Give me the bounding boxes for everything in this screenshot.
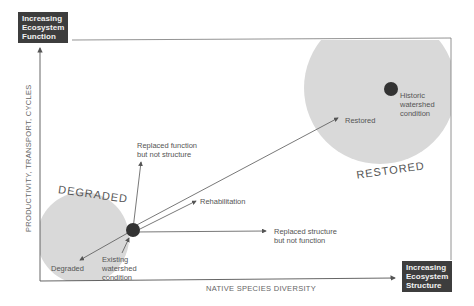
structure-corner-label: Increasing Ecosystem Structure: [402, 261, 452, 292]
arrow-replaced-structure: [133, 231, 266, 232]
label-line: condition: [102, 273, 137, 282]
label-line: Replaced structure: [274, 227, 337, 236]
label-line: watershed: [102, 264, 137, 273]
arrow-restored: [133, 118, 338, 227]
label-line: Increasing: [22, 14, 64, 23]
arrow-rehabilitation: [136, 201, 196, 231]
label-line: Increasing: [406, 263, 448, 272]
historic-condition-dot: [384, 82, 398, 96]
x-axis-label: NATIVE SPECIES DIVERSITY: [206, 284, 316, 293]
label-line: condition: [400, 109, 435, 118]
arrow-replaced-function: [133, 162, 141, 229]
restored-region: [304, 12, 456, 164]
historic-condition-label: Historic watershed condition: [400, 91, 435, 118]
label-line: but not function: [274, 236, 337, 245]
label-line: Structure: [406, 281, 448, 290]
label-line: Existing: [102, 255, 137, 264]
label-line: but not structure: [137, 150, 197, 159]
rehabilitation-label: Rehabilitation: [200, 197, 245, 206]
label-line: watershed: [400, 100, 435, 109]
replaced-structure-label: Replaced structure but not function: [274, 227, 337, 245]
label-line: Ecosystem: [22, 23, 64, 32]
degraded-label: Degraded: [51, 264, 84, 273]
existing-condition-label: Existing watershed condition: [102, 255, 137, 282]
y-axis-label: PRODUCTIVITY, TRANSPORT, CYCLES: [24, 84, 33, 232]
function-corner-label: Increasing Ecosystem Function: [18, 12, 68, 43]
replaced-function-label: Replaced function but not structure: [137, 141, 197, 159]
label-line: Function: [22, 32, 64, 41]
label-line: Historic: [400, 91, 435, 100]
label-line: Replaced function: [137, 141, 197, 150]
existing-condition-dot: [126, 223, 140, 237]
restored-label: Restored: [345, 116, 375, 125]
label-line: Ecosystem: [406, 272, 448, 281]
